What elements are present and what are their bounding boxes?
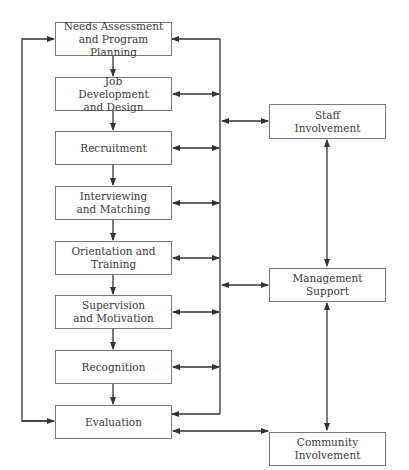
- step-evaluation: Evaluation: [55, 405, 172, 439]
- step-recognition: Recognition: [55, 350, 172, 384]
- step-job-development: Job Development and Design: [55, 77, 172, 111]
- connector-layer: [0, 0, 409, 470]
- step-interviewing: Interviewing and Matching: [55, 186, 172, 220]
- step-orientation: Orientation and Training: [55, 241, 172, 275]
- factor-staff-involvement: Staff Involvement: [269, 104, 386, 139]
- step-recruitment: Recruitment: [55, 131, 172, 165]
- step-needs-assessment: Needs Assessment and Program Planning: [55, 22, 172, 56]
- factor-community-involvement: Community Involvement: [269, 432, 386, 466]
- feedback-loop-up: [22, 39, 54, 421]
- step-supervision: Supervision and Motivation: [55, 295, 172, 329]
- factor-management-support: Management Support: [269, 268, 386, 302]
